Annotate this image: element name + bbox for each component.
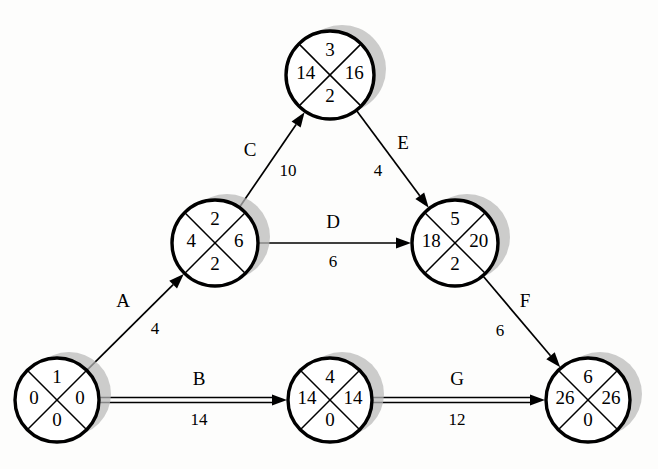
node-left-value: 18 <box>422 230 441 251</box>
edge-g <box>373 395 545 406</box>
event-node-2[interactable]: 2462 <box>172 194 270 286</box>
node-right-value: 14 <box>344 387 364 408</box>
edge-e <box>357 111 429 208</box>
node-bottom-value: 0 <box>52 409 62 430</box>
edge-label-group-c: C10 <box>244 139 297 180</box>
node-right-value: 20 <box>469 230 488 251</box>
node-bottom-value: 0 <box>583 409 593 430</box>
edge-label-e: E <box>397 132 409 153</box>
edge-label-g: G <box>450 368 464 389</box>
edge-label-a: A <box>116 290 130 311</box>
edge-label-group-a: A4 <box>116 290 160 338</box>
node-top-value: 4 <box>325 366 335 387</box>
node-right-value: 16 <box>345 62 364 83</box>
edge-label-d: D <box>326 211 340 232</box>
edge-d <box>259 238 411 249</box>
node-bottom-value: 2 <box>325 85 335 106</box>
node-left-value: 14 <box>296 62 316 83</box>
node-left-value: 26 <box>555 387 574 408</box>
event-node-5[interactable]: 518202 <box>412 194 510 286</box>
node-bottom-value: 0 <box>325 409 335 430</box>
edge-label-c: C <box>244 139 257 160</box>
event-node-1[interactable]: 1000 <box>15 352 111 442</box>
edge-label-group-b: B14 <box>191 368 209 429</box>
edge-label-b: B <box>193 368 206 389</box>
node-bottom-value: 2 <box>450 253 460 274</box>
edge-label-group-d: D6 <box>326 211 340 271</box>
node-left-value: 14 <box>297 387 317 408</box>
diagram-canvas: 10002462314162414140518202626260 A4B14C1… <box>0 0 658 469</box>
edge-duration-d: 6 <box>329 252 338 271</box>
edge-duration-e: 4 <box>374 161 383 180</box>
node-top-value: 3 <box>325 39 335 60</box>
node-right-value: 0 <box>75 387 85 408</box>
activity-network-diagram: 10002462314162414140518202626260 A4B14C1… <box>0 0 658 469</box>
node-bottom-value: 2 <box>210 253 220 274</box>
node-top-value: 2 <box>210 208 220 229</box>
event-node-3[interactable]: 314162 <box>286 25 386 119</box>
node-left-value: 0 <box>29 387 39 408</box>
event-node-4[interactable]: 414140 <box>288 352 384 442</box>
edge-duration-c: 10 <box>280 161 297 180</box>
nodes-layer: 10002462314162414140518202626260 <box>15 25 642 442</box>
edge-duration-b: 14 <box>191 410 209 429</box>
node-top-value: 1 <box>52 366 62 387</box>
edge-label-f: F <box>520 290 531 311</box>
edge-duration-a: 4 <box>151 319 160 338</box>
edge-a <box>88 274 184 370</box>
node-top-value: 5 <box>450 208 460 229</box>
edge-b <box>100 395 287 406</box>
edge-duration-f: 6 <box>496 321 505 340</box>
node-right-value: 6 <box>234 230 244 251</box>
node-right-value: 26 <box>602 387 621 408</box>
node-top-value: 6 <box>583 366 593 387</box>
edge-duration-g: 12 <box>449 410 466 429</box>
edge-label-group-g: G12 <box>449 368 466 429</box>
event-node-6[interactable]: 626260 <box>546 352 642 442</box>
node-left-value: 4 <box>187 230 197 251</box>
